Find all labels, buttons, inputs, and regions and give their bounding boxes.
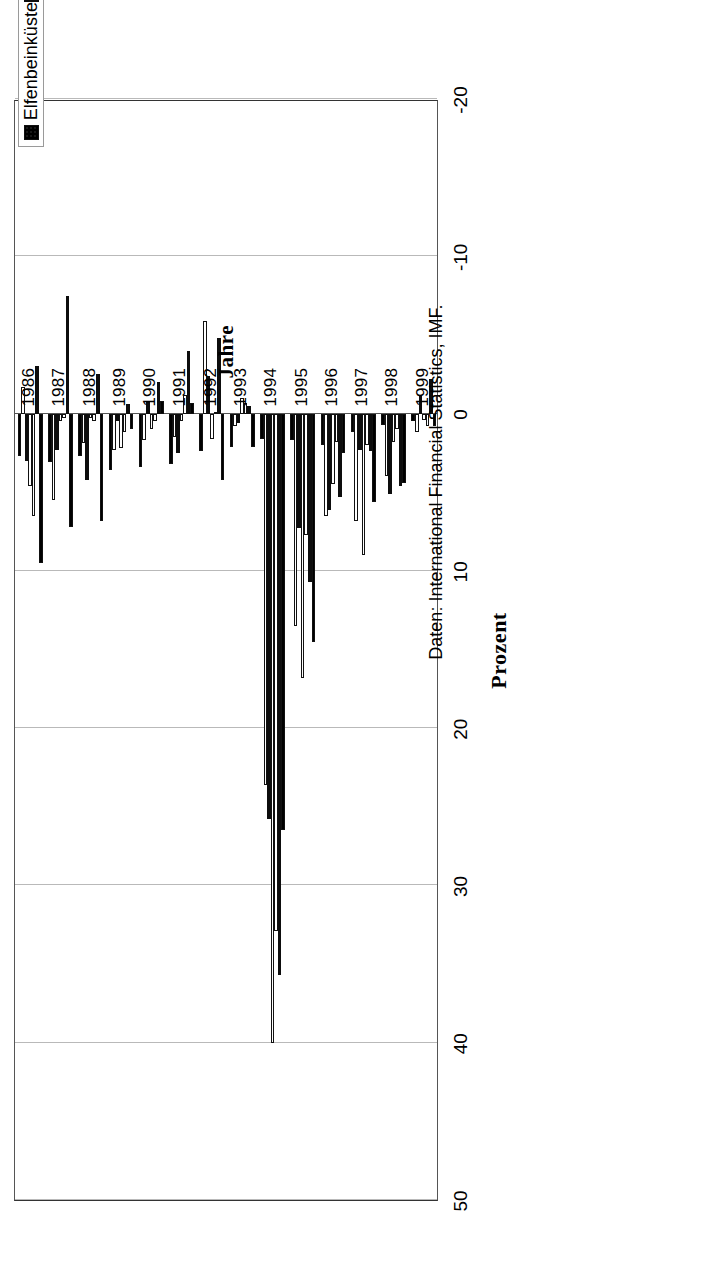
bar-burkina-faso-1997	[358, 414, 362, 450]
bar-senegal-1987	[62, 414, 66, 419]
bar-senegal-1996	[335, 414, 339, 442]
bar-frankreich-1995	[290, 414, 294, 441]
bar-elfenbeink-ste-1996	[342, 414, 346, 453]
bar-group-1996	[318, 101, 348, 1200]
bar-group-1991	[166, 101, 196, 1200]
plot-area	[14, 100, 438, 1201]
bar-togo-1992	[210, 414, 214, 439]
bar-togo-1995	[301, 414, 305, 678]
bar-mali-1999	[415, 414, 419, 433]
year-tick-1997: 1997	[347, 368, 377, 407]
bar-elfenbeink-ste-1998	[402, 414, 406, 483]
legend: ElfenbeinküsteNigerSenegalTogoBurkina Fa…	[18, 0, 44, 147]
bar-elfenbeink-ste-1987	[69, 414, 73, 527]
year-tick-1987: 1987	[44, 368, 74, 407]
bar-burkina-faso-1991	[176, 414, 180, 453]
bar-mali-1994	[264, 414, 268, 785]
bar-niger-1994	[278, 414, 282, 976]
bar-group-1997	[348, 101, 378, 1200]
bar-niger-1998	[399, 414, 403, 486]
bar-elfenbeink-ste-1989	[130, 414, 134, 430]
bar-togo-1997	[362, 414, 366, 556]
year-tick-1986: 1986	[14, 368, 44, 407]
bar-burkina-faso-1993	[237, 414, 241, 423]
value-axis-title: Prozent	[486, 612, 512, 688]
bar-frankreich-1998	[381, 414, 385, 425]
bar-togo-1986	[28, 414, 32, 486]
value-tick-0: 0	[450, 409, 472, 420]
bar-senegal-1994	[274, 414, 278, 931]
bar-frankreich-1994	[260, 414, 264, 439]
value-tick-20: 20	[450, 719, 472, 740]
bar-frankreich-1999	[411, 414, 415, 422]
bar-frankreich-1991	[169, 414, 173, 464]
bar-frankreich-1993	[230, 414, 234, 447]
bar-elfenbeink-ste-1994	[281, 414, 285, 831]
bar-elfenbeink-ste-1995	[312, 414, 316, 642]
year-tick-1990: 1990	[135, 368, 165, 407]
bar-frankreich-1988	[78, 414, 82, 456]
bar-mali-1993	[233, 414, 237, 427]
bar-senegal-1988	[92, 414, 96, 422]
bar-elfenbeink-ste-1988	[100, 414, 104, 521]
bar-togo-1994	[271, 414, 275, 1043]
bar-frankreich-1990	[139, 414, 143, 467]
category-axis-title: Jahre	[214, 325, 239, 378]
bar-burkina-faso-1986	[25, 414, 29, 461]
bar-togo-1998	[392, 414, 396, 442]
gridline	[15, 98, 437, 99]
bar-burkina-faso-1995	[297, 414, 301, 529]
bar-group-1987	[45, 101, 75, 1200]
bar-togo-1989	[119, 414, 123, 449]
bar-burkina-faso-1987	[55, 414, 59, 450]
bar-group-1990	[136, 101, 166, 1200]
bar-senegal-1998	[395, 414, 399, 430]
bar-togo-1987	[59, 414, 63, 422]
value-tick-minus10: -10	[450, 244, 472, 271]
legend-swatch-icon	[24, 0, 39, 2]
bar-elfenbeink-ste-1997	[372, 414, 376, 502]
bar-niger-1995	[308, 414, 312, 582]
bar-senegal-1990	[153, 414, 157, 422]
bar-group-1988	[76, 101, 106, 1200]
bar-elfenbeink-ste-1993	[251, 414, 255, 447]
bar-togo-1996	[331, 414, 335, 485]
legend-item-elfenbeinküste[interactable]: Elfenbeinküste	[22, 2, 40, 140]
bar-group-1986	[15, 101, 45, 1200]
bar-elfenbeink-ste-1992	[221, 414, 225, 480]
year-tick-1998: 1998	[377, 368, 407, 407]
year-tick-1988: 1988	[75, 368, 105, 407]
bar-frankreich-1997	[351, 414, 355, 433]
bar-group-1993	[227, 101, 257, 1200]
bar-burkina-faso-1998	[388, 414, 392, 494]
value-tick-minus20: -20	[450, 86, 472, 113]
bar-senegal-1995	[304, 414, 308, 535]
bar-mali-1988	[82, 414, 86, 444]
bar-senegal-1997	[365, 414, 369, 445]
year-tick-1996: 1996	[317, 368, 347, 407]
bar-mali-1989	[112, 414, 116, 450]
bar-frankreich-1986	[18, 414, 22, 456]
bar-group-1994	[257, 101, 287, 1200]
year-tick-1989: 1989	[105, 368, 135, 407]
year-tick-1991: 1991	[165, 368, 195, 407]
value-tick-50: 50	[450, 1190, 472, 1211]
bar-mali-1991	[173, 414, 177, 438]
bar-niger-1997	[369, 414, 373, 452]
legend-label: Elfenbeinküste	[22, 2, 40, 120]
bar-niger-1993	[247, 406, 251, 414]
bar-mali-1998	[385, 414, 389, 477]
value-tick-40: 40	[450, 1033, 472, 1054]
bar-mali-1990	[142, 414, 146, 441]
bar-burkina-faso-1994	[267, 414, 271, 820]
bar-mali-1996	[324, 414, 328, 516]
year-tick-1995: 1995	[287, 368, 317, 407]
bar-group-1989	[106, 101, 136, 1200]
bar-senegal-1992	[214, 412, 218, 414]
bar-group-1995	[288, 101, 318, 1200]
bar-togo-1988	[89, 414, 93, 419]
legend-swatch-icon	[24, 125, 39, 140]
bar-frankreich-1996	[321, 414, 325, 445]
legend-item-niger[interactable]: Niger	[22, 0, 40, 2]
bar-frankreich-1989	[109, 414, 113, 471]
